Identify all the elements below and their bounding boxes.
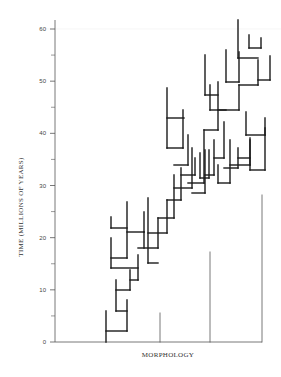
y-tick-label: 60 xyxy=(39,26,46,32)
branch-segments xyxy=(106,20,270,342)
y-ticks: 0102030405060 xyxy=(39,26,55,345)
y-tick-label: 20 xyxy=(39,235,46,241)
y-tick-label: 30 xyxy=(39,183,46,189)
y-axis-label: TIME (MILLIONS OF YEARS) xyxy=(17,157,25,256)
y-tick-label: 0 xyxy=(43,339,47,345)
y-tick-label: 10 xyxy=(39,287,46,293)
phylogeny-diagram: 0102030405060 xyxy=(0,0,281,377)
y-tick-label: 40 xyxy=(39,130,46,136)
x-axis-label: MORPHOLOGY xyxy=(142,351,194,359)
y-tick-label: 50 xyxy=(39,78,46,84)
lineage-lines xyxy=(160,195,262,342)
